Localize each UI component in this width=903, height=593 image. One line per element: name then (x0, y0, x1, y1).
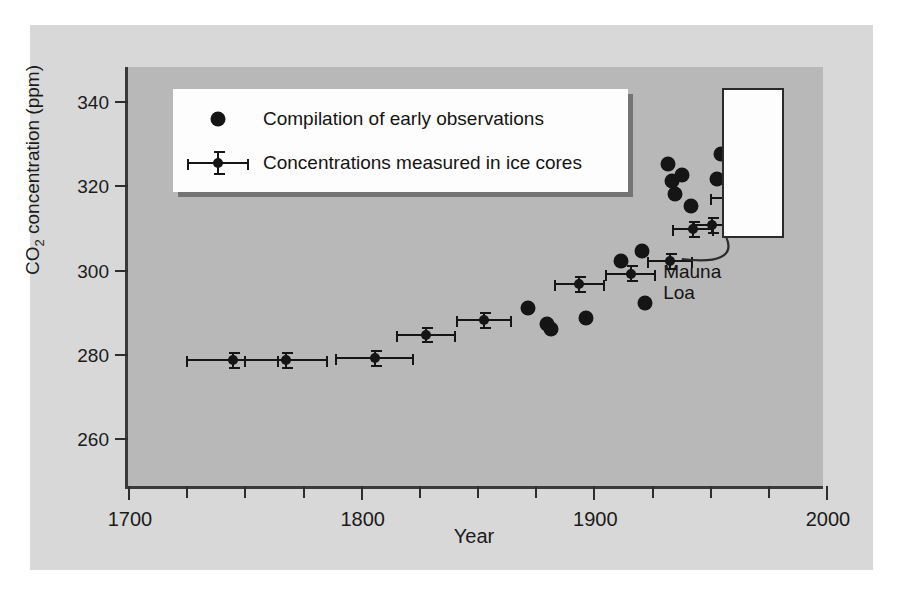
legend-marker-dot (173, 99, 263, 139)
x-axis-title: Year (125, 525, 823, 548)
data-point (370, 353, 380, 363)
y-tick-label-280: 280 (77, 345, 109, 367)
y-axis-title-post: concentration (ppm) (22, 65, 43, 239)
data-point (660, 157, 675, 172)
y-tick-label-340: 340 (77, 92, 109, 114)
x-tick-minor-1975 (768, 486, 770, 498)
x-tick-minor-1850 (477, 486, 479, 498)
legend-label-ice-cores: Concentrations measured in ice cores (263, 152, 582, 174)
data-point (684, 199, 699, 214)
y-tick-320: 320 (115, 185, 128, 187)
y-axis-title: CO2 concentration (ppm) (22, 65, 47, 275)
data-point (479, 315, 489, 325)
x-tick-1700: 1700 (128, 486, 130, 500)
data-point (544, 321, 559, 336)
x-tick-minor-1775 (303, 486, 305, 498)
data-point (674, 167, 689, 182)
x-tick-minor-1950 (710, 486, 712, 498)
legend-label-early-observations: Compilation of early observations (263, 108, 544, 130)
legend-marker-dot-with-error-bars (173, 143, 263, 183)
chart-legend: Compilation of early observations Concen… (173, 89, 628, 192)
x-tick-minor-1925 (652, 486, 654, 498)
data-point (579, 311, 594, 326)
data-point (281, 355, 291, 365)
y-tick-260: 260 (115, 438, 128, 440)
data-point (637, 296, 652, 311)
y-tick-label-320: 320 (77, 176, 109, 198)
data-point (521, 300, 536, 315)
legend-item-early-observations: Compilation of early observations (173, 99, 628, 139)
x-tick-1800: 1800 (361, 486, 363, 500)
x-tick-minor-1725 (186, 486, 188, 498)
y-tick-label-300: 300 (77, 261, 109, 283)
y-tick-280: 280 (115, 354, 128, 356)
mauna-loa-label: Mauna Loa (663, 261, 721, 304)
data-point (707, 220, 717, 230)
data-point (667, 186, 682, 201)
x-tick-1900: 1900 (593, 486, 595, 500)
mauna-loa-callout-box (722, 88, 784, 238)
data-point (421, 330, 431, 340)
y-axis-title-pre: CO (22, 247, 43, 276)
x-tick-minor-1875 (535, 486, 537, 498)
plot-area: 260280300320340 1700180019002000 Mauna L… (125, 67, 823, 489)
mauna-loa-label-line1: Mauna (663, 261, 721, 282)
y-tick-label-260: 260 (77, 429, 109, 451)
data-point (228, 355, 238, 365)
data-point (626, 269, 636, 279)
x-tick-2000: 2000 (826, 486, 828, 500)
mauna-loa-label-line2: Loa (663, 282, 721, 303)
y-axis-title-subscript: 2 (32, 239, 47, 246)
y-tick-340: 340 (115, 101, 128, 103)
x-tick-minor-1750 (244, 486, 246, 498)
data-point (574, 279, 584, 289)
figure-panel: CO2 concentration (ppm) 260280300320340 … (30, 25, 873, 570)
y-tick-300: 300 (115, 270, 128, 272)
legend-item-ice-cores: Concentrations measured in ice cores (173, 143, 628, 183)
x-tick-minor-1825 (419, 486, 421, 498)
data-point (635, 243, 650, 258)
